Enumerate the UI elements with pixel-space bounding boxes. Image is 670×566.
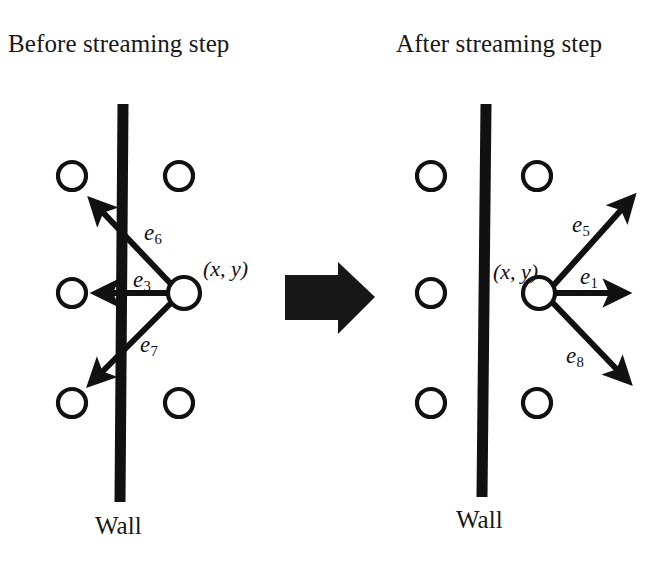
vector-label-e8-sub: 8 [577, 354, 584, 370]
vector-label-e7-sub: 7 [151, 343, 158, 359]
vector-label-e7: e7 [140, 333, 158, 356]
streaming-step-figure: Before streaming step After streaming st… [0, 0, 670, 566]
lattice-node [165, 389, 193, 417]
vector-label-e1: e1 [580, 265, 598, 288]
vector-e7 [92, 303, 171, 382]
vector-label-e3-sub: 3 [144, 278, 151, 294]
lattice-node [58, 279, 86, 307]
lattice-node [58, 389, 86, 417]
vector-label-e3-base: e [133, 267, 143, 292]
vector-label-e6-base: e [144, 220, 154, 245]
coordinate-label-right: (x, y) [493, 259, 538, 285]
coordinate-label-left: (x, y) [203, 256, 248, 282]
streaming-step-arrow [285, 262, 375, 334]
left-panel-graphics [58, 104, 200, 502]
vector-label-e3: e3 [133, 268, 151, 291]
wall-bar-right [477, 104, 492, 497]
lattice-node [417, 389, 445, 417]
origin-node-left [168, 277, 200, 309]
vector-e8 [552, 302, 627, 380]
vector-label-e5: e5 [572, 213, 590, 236]
wall-label-right: Wall [456, 506, 503, 534]
lattice-node [523, 162, 551, 190]
wall-bar-left [115, 104, 129, 502]
lattice-node [417, 162, 445, 190]
wall-label-left: Wall [95, 512, 142, 540]
vector-label-e5-sub: 5 [583, 223, 590, 239]
vector-label-e6-sub: 6 [155, 231, 162, 247]
vector-label-e7-base: e [140, 332, 150, 357]
diagram-canvas [0, 0, 670, 566]
vector-label-e1-base: e [580, 264, 590, 289]
vector-label-e8-base: e [566, 343, 576, 368]
lattice-node [417, 279, 445, 307]
vector-label-e6: e6 [144, 221, 162, 244]
vector-label-e1-sub: 1 [591, 275, 598, 291]
vector-label-e8: e8 [566, 344, 584, 367]
lattice-node [58, 162, 86, 190]
lattice-node [165, 162, 193, 190]
vector-label-e5-base: e [572, 212, 582, 237]
right-panel-graphics [417, 104, 631, 497]
lattice-node [523, 389, 551, 417]
